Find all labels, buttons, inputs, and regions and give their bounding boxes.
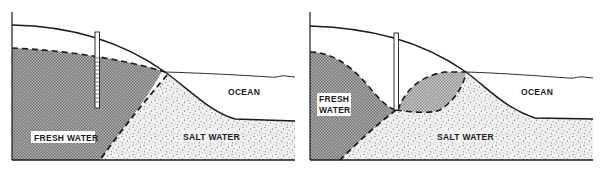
salt-water-label: SALT WATER [183, 132, 240, 142]
salt-water-label: SALT WATER [437, 132, 494, 142]
fresh-label: FRESH [319, 94, 349, 104]
ocean-surface-line [165, 72, 295, 77]
water-label: WATER [319, 105, 351, 115]
ocean-label: OCEAN [228, 87, 260, 97]
saltwater-intrusion-diagram: FRESH WATER SALT WATER OCEAN [0, 0, 608, 175]
ocean-surface-line [466, 72, 593, 78]
fresh-water-label: FRESH WATER [34, 133, 99, 143]
well-icon [394, 33, 399, 110]
panel-after-pumping: FRESH WATER SALT WATER OCEAN [310, 12, 593, 160]
ocean-label: OCEAN [521, 87, 553, 97]
well-icon [95, 32, 100, 108]
panel-before-pumping: FRESH WATER SALT WATER OCEAN [12, 12, 295, 160]
